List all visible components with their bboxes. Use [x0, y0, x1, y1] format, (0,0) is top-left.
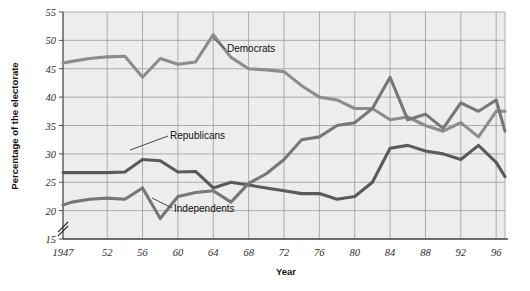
x-tick-label: 1947: [53, 247, 75, 258]
y-tick-label: 45: [46, 64, 57, 75]
x-tick-label: 56: [137, 247, 148, 258]
y-tick-label: 40: [46, 92, 57, 103]
y-tick-label: 55: [46, 7, 57, 18]
x-tick-label: 80: [349, 247, 360, 258]
x-tick-label: 88: [420, 247, 431, 258]
x-tick-label: 96: [491, 247, 502, 258]
x-axis-title: Year: [276, 266, 296, 277]
y-tick-label: 35: [45, 121, 57, 132]
y-tick-label: 50: [46, 35, 57, 46]
chart-container: 152025303540455055 194752566064687276808…: [0, 0, 530, 291]
x-tick-label: 68: [243, 247, 254, 258]
x-tick-label: 72: [279, 247, 290, 258]
electorate-party-identification-line-chart: 152025303540455055 194752566064687276808…: [0, 0, 530, 291]
series-label-independents: Independents: [174, 203, 235, 214]
series-label-democrats: Democrats: [227, 43, 275, 54]
y-axis-title: Percentage of the electorate: [9, 62, 20, 189]
x-tick-label: 52: [102, 247, 113, 258]
series-label-republicans: Republicans: [170, 130, 225, 141]
y-tick-label: 25: [46, 177, 57, 188]
y-tick-label: 20: [46, 206, 57, 217]
y-tick-label: 15: [46, 234, 57, 245]
x-tick-label: 84: [385, 247, 396, 258]
x-tick-label: 76: [314, 247, 325, 258]
y-tick-label: 30: [45, 149, 57, 160]
x-tick-label: 60: [173, 247, 184, 258]
x-tick-label: 64: [208, 247, 219, 258]
x-tick-label: 92: [456, 247, 467, 258]
